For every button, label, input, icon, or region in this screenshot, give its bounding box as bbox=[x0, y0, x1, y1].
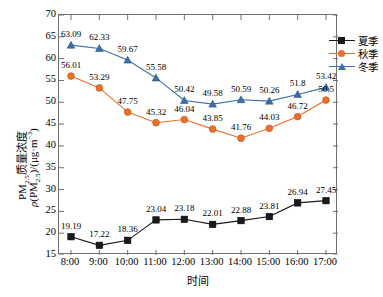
x-tick-16-00: 16:00 bbox=[285, 256, 309, 267]
data-label-夏季-13-00: 22.01 bbox=[203, 209, 223, 218]
data-label-秋季-9-00: 53.29 bbox=[89, 73, 109, 82]
y-axis-title: PM2.5质量浓度 ρ(PM2.5)/(μg·m−3) bbox=[0, 0, 32, 270]
data-label-秋季-11-00: 45.32 bbox=[146, 108, 166, 117]
y-tick-25: 25 bbox=[34, 205, 56, 215]
y-tick-50: 50 bbox=[34, 96, 56, 106]
y-tick-65: 65 bbox=[34, 31, 56, 41]
data-label-冬季-11-00: 55.58 bbox=[146, 63, 166, 72]
data-label-夏季-9-00: 17.22 bbox=[89, 230, 109, 239]
data-label-夏季-8-00: 19.19 bbox=[61, 222, 81, 231]
data-label-秋季-13-00: 43.85 bbox=[203, 114, 223, 123]
data-label-夏季-14-00: 22.88 bbox=[231, 206, 251, 215]
x-tick-11-00: 11:00 bbox=[143, 256, 167, 267]
data-label-夏季-12-00: 23.18 bbox=[174, 204, 194, 213]
y-tick-55: 55 bbox=[34, 74, 56, 84]
x-tick-14-00: 14:00 bbox=[228, 256, 252, 267]
data-label-冬季-10-00: 59.67 bbox=[118, 45, 138, 54]
circle-marker-icon bbox=[338, 50, 345, 57]
data-label-秋季-8-00: 56.01 bbox=[61, 61, 81, 70]
data-label-冬季-9-00: 62.33 bbox=[89, 33, 109, 42]
data-label-秋季-16-00: 46.72 bbox=[288, 102, 308, 111]
data-label-夏季-11-00: 23.04 bbox=[146, 205, 166, 214]
data-label-秋季-14-00: 41.76 bbox=[231, 123, 251, 132]
legend: 夏季 秋季 冬季 bbox=[327, 33, 383, 74]
legend-item-winter: 冬季 bbox=[329, 60, 383, 73]
x-tick-12-00: 12:00 bbox=[171, 256, 195, 267]
y-tick-15: 15 bbox=[34, 249, 56, 259]
triangle-marker-icon bbox=[338, 63, 346, 70]
x-tick-9-00: 9:00 bbox=[89, 256, 108, 267]
data-label-冬季-14-00: 50.59 bbox=[231, 85, 251, 94]
legend-label-winter: 冬季 bbox=[358, 59, 378, 74]
x-axis-tick-labels: 8:009:0010:0011:0012:0013:0014:0015:0016… bbox=[58, 256, 337, 272]
data-label-夏季-17-00: 27.45 bbox=[316, 186, 336, 195]
x-tick-13-00: 13:00 bbox=[200, 256, 224, 267]
data-label-秋季-17-00: 50.5 bbox=[318, 85, 334, 94]
data-label-冬季-12-00: 50.42 bbox=[174, 85, 194, 94]
series-canvas bbox=[59, 15, 338, 255]
data-label-夏季-15-00: 23.81 bbox=[259, 202, 279, 211]
y-tick-40: 40 bbox=[34, 140, 56, 150]
y-axis-tick-labels: 152025303540455055606570 bbox=[30, 14, 56, 254]
data-label-夏季-16-00: 26.94 bbox=[288, 188, 308, 197]
data-label-夏季-10-00: 18.36 bbox=[118, 225, 138, 234]
y-tick-20: 20 bbox=[34, 227, 56, 237]
x-tick-8-00: 8:00 bbox=[61, 256, 80, 267]
data-label-冬季-8-00: 63.09 bbox=[61, 30, 81, 39]
data-label-冬季-16-00: 51.8 bbox=[290, 79, 306, 88]
square-marker-icon bbox=[338, 37, 345, 44]
data-label-冬季-15-00: 50.26 bbox=[259, 86, 279, 95]
y-tick-70: 70 bbox=[34, 9, 56, 19]
y-tick-45: 45 bbox=[34, 118, 56, 128]
y-tick-60: 60 bbox=[34, 53, 56, 63]
x-tick-17-00: 17:00 bbox=[313, 256, 337, 267]
y-tick-30: 30 bbox=[34, 184, 56, 194]
legend-swatch-autumn bbox=[329, 48, 355, 59]
data-label-秋季-15-00: 44.03 bbox=[259, 113, 279, 122]
y-tick-35: 35 bbox=[34, 162, 56, 172]
x-tick-10-00: 10:00 bbox=[115, 256, 139, 267]
data-label-冬季-13-00: 49.58 bbox=[203, 89, 223, 98]
legend-swatch-winter bbox=[329, 61, 355, 72]
x-axis-title: 时间 bbox=[58, 272, 337, 288]
legend-swatch-summer bbox=[329, 35, 355, 46]
data-label-秋季-12-00: 46.04 bbox=[174, 105, 194, 114]
data-label-秋季-10-00: 47.75 bbox=[118, 97, 138, 106]
x-tick-15-00: 15:00 bbox=[256, 256, 280, 267]
plot-area: 19.1917.2218.3623.0423.1822.0122.8823.81… bbox=[58, 14, 337, 254]
